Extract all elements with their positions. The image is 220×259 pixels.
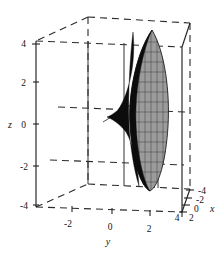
box-edge-back-top bbox=[88, 17, 190, 23]
box-edge-bottom-left-diag bbox=[36, 184, 88, 207]
box-edge-top-front bbox=[36, 41, 182, 47]
tick-marks bbox=[32, 44, 194, 217]
z-axis-labels: 4 2 0 -2 -4 z bbox=[7, 39, 28, 211]
z-tick-label-m4: -4 bbox=[20, 201, 28, 211]
x-axis-labels: -4 -2 0 2 x bbox=[189, 186, 215, 223]
z-tick-label-0: 0 bbox=[21, 120, 26, 130]
box-edge-top-left-diag bbox=[36, 17, 88, 41]
z-tick-label-2: 2 bbox=[21, 78, 26, 88]
x-tick-label-0: 0 bbox=[194, 204, 199, 214]
x-tick-label-2: 2 bbox=[189, 213, 194, 223]
box-edge-bottom-front bbox=[36, 207, 182, 212]
y-tick-label-2: 2 bbox=[147, 224, 152, 234]
y-tick-label-4: 4 bbox=[175, 213, 180, 223]
z-tick-label-m2: -2 bbox=[20, 162, 28, 172]
y-tick-label-m2: -2 bbox=[64, 219, 72, 229]
z-tick-label-4: 4 bbox=[21, 39, 26, 49]
y-axis-title: y bbox=[105, 236, 111, 247]
y-tick-label-0: 0 bbox=[108, 222, 113, 232]
surface-3d bbox=[107, 28, 174, 196]
x-axis-title: x bbox=[209, 203, 215, 214]
box-edge-top-right-diag bbox=[182, 23, 190, 47]
box-edge-bottom-right-diag bbox=[182, 189, 190, 212]
plot-canvas: 4 2 0 -2 -4 z -2 0 2 4 y -4 -2 0 2 x bbox=[0, 0, 220, 259]
y-axis-labels: -2 0 2 4 y bbox=[64, 213, 180, 247]
z-axis-title: z bbox=[7, 119, 12, 130]
surface-plot-figure: 4 2 0 -2 -4 z -2 0 2 4 y -4 -2 0 2 x bbox=[0, 0, 220, 259]
